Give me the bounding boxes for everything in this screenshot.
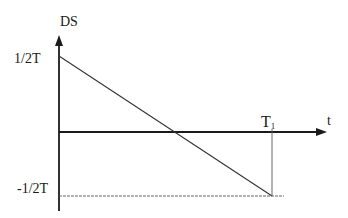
t-axis-arrow-icon: [316, 128, 327, 136]
t1-main: T: [261, 113, 271, 130]
x-axis-label: t: [327, 114, 331, 128]
t1-subscript: 1: [271, 121, 276, 131]
diagram-canvas: [0, 0, 348, 218]
y-tick-top-label: 1/2T: [14, 52, 40, 66]
t-axis: [59, 128, 327, 136]
ds-line: [59, 56, 272, 196]
t1-marker-label: T1: [261, 114, 275, 131]
y-axis: [55, 35, 63, 211]
y-axis-label: DS: [60, 15, 78, 29]
y-axis-arrow-icon: [55, 35, 63, 46]
y-tick-bottom-label: -1/2T: [17, 182, 48, 196]
